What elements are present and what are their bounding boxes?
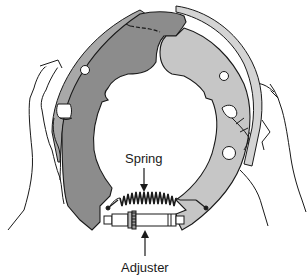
- brake-shoe-diagram: [0, 0, 307, 278]
- spring-arrow: [140, 168, 148, 192]
- adjuster-arrow: [141, 230, 149, 256]
- left-shoe-hole: [81, 66, 90, 75]
- right-shoe-hole-lower: [223, 147, 236, 160]
- adjuster-label: Adjuster: [121, 261, 169, 274]
- spring-label: Spring: [125, 152, 163, 165]
- adjuster: [104, 211, 184, 229]
- right-shoe-hole-upper: [220, 72, 229, 81]
